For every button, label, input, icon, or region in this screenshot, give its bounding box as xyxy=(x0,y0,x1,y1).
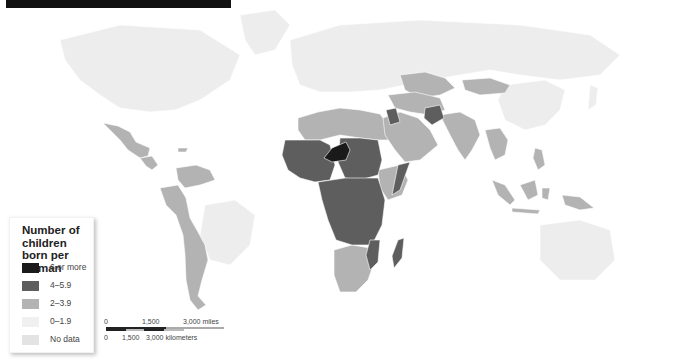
india xyxy=(440,112,480,160)
indonesia-sumatra xyxy=(492,180,515,205)
scale-bar: 0 1,500 3,000 miles 0 1,500 3,000 kilome… xyxy=(104,318,244,348)
mexico xyxy=(103,123,150,158)
legend-item-2-3-9: 2–3.9 xyxy=(22,299,92,310)
north-america xyxy=(60,25,240,112)
caribbean xyxy=(178,148,188,152)
legend-label: 0–1.9 xyxy=(50,316,71,326)
swatch-4-5-9 xyxy=(22,281,39,291)
legend-item-no-data: No data xyxy=(22,335,92,346)
swatch-2-3-9 xyxy=(22,299,39,309)
borneo xyxy=(520,180,538,200)
west-africa xyxy=(282,140,335,182)
legend-item-4-5-9: 4–5.9 xyxy=(22,281,92,292)
legend-label: 6 or more xyxy=(50,262,86,272)
central-africa xyxy=(318,178,385,245)
scale-km-max: 3,000 kilometers xyxy=(146,334,197,341)
scale-bar-km-segment-a xyxy=(106,329,126,331)
north-africa xyxy=(298,108,392,140)
legend-item-0-1-9: 0–1.9 xyxy=(22,317,92,328)
java xyxy=(512,208,540,214)
andes-west xyxy=(160,185,208,310)
greenland xyxy=(240,10,290,55)
southeast-asia xyxy=(485,128,508,160)
swatch-0-1-9 xyxy=(22,317,39,327)
central-america xyxy=(140,156,158,170)
scale-bar-km-segment-b xyxy=(144,329,164,331)
venezuela-colombia xyxy=(176,165,215,188)
swatch-no-data xyxy=(22,335,39,345)
legend-label: 2–3.9 xyxy=(50,298,71,308)
afghanistan xyxy=(424,105,444,125)
scale-km-mid: 1,500 xyxy=(122,334,140,341)
philippines xyxy=(533,148,545,170)
madagascar xyxy=(392,238,404,268)
australia xyxy=(540,220,615,280)
mongolia xyxy=(462,78,510,95)
brazil xyxy=(200,200,255,265)
legend: Number of children born per woman 6 or m… xyxy=(9,217,94,353)
japan xyxy=(588,85,598,110)
world-map xyxy=(0,0,680,362)
swatch-6-or-more xyxy=(22,263,39,273)
europe-russia xyxy=(290,20,620,92)
sulawesi xyxy=(542,188,550,200)
legend-label: No data xyxy=(50,334,80,344)
scale-miles-mid: 1,500 xyxy=(142,318,160,325)
scale-miles-zero: 0 xyxy=(104,318,108,325)
legend-label: 4–5.9 xyxy=(50,280,71,290)
scale-miles-max: 3,000 miles xyxy=(183,318,219,325)
legend-item-6-or-more: 6 or more xyxy=(22,263,92,274)
scale-km-zero: 0 xyxy=(104,334,108,341)
papua-new-guinea xyxy=(562,195,594,210)
